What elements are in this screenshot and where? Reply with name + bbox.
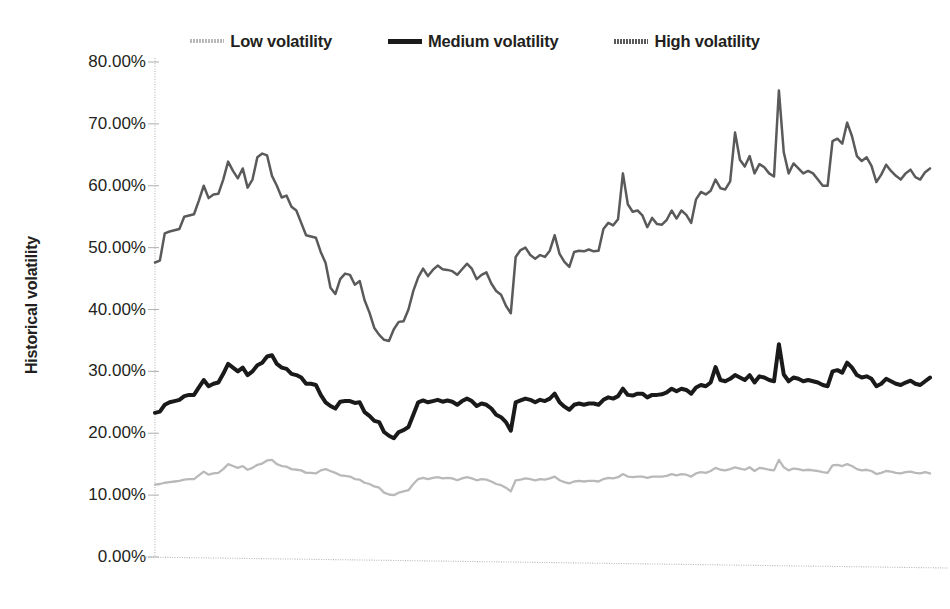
x-axis-line [141,557,948,568]
series-line-high-volatility [155,90,930,341]
series-line-medium-volatility [155,344,930,438]
plot-canvas [0,0,950,609]
historical-volatility-chart: Low volatility Medium volatility High vo… [0,0,950,609]
data-series-group [155,90,930,495]
axis-lines [141,58,948,568]
plot-area [0,0,950,609]
series-line-low-volatility [155,460,930,495]
